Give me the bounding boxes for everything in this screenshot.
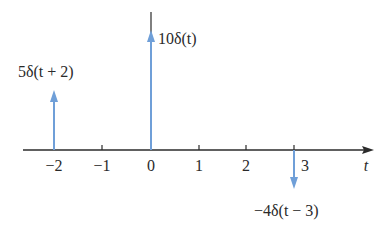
arrow-up-icon (50, 90, 58, 102)
impulse-label-t-3: −4δ(t − 3) (254, 203, 319, 219)
axis-label-t: t (364, 158, 368, 174)
tick-label: −2 (45, 158, 62, 174)
impulse-label-t-0: 10δ(t) (158, 31, 197, 47)
arrow-up-icon (147, 30, 155, 42)
arrow-down-icon (290, 177, 298, 189)
tick-label: 0 (147, 158, 155, 174)
impulse-diagram: −2 −1 0 1 2 3 t 5δ(t + 2) 10δ(t) −4δ(t −… (0, 0, 390, 236)
tick-label: −1 (93, 158, 110, 174)
tick-label: 3 (301, 158, 309, 174)
tick-label: 1 (195, 158, 203, 174)
impulse-t-0 (147, 30, 155, 150)
tick-label: 2 (242, 158, 250, 174)
impulse-t-3 (290, 150, 298, 189)
impulse-label-t-minus-2: 5δ(t + 2) (18, 64, 74, 80)
impulse-t-minus-2 (50, 90, 58, 150)
